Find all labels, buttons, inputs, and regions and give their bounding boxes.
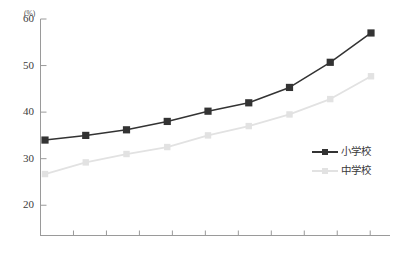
legend-swatch-elementary	[312, 146, 338, 158]
series-marker	[286, 111, 292, 117]
series-marker	[327, 96, 333, 102]
series-marker	[246, 123, 252, 129]
series-marker	[41, 136, 48, 143]
series-marker	[82, 132, 89, 139]
x-axis-ticks	[73, 231, 370, 236]
series-marker	[286, 84, 293, 91]
y-axis-tick-label: 60	[6, 12, 34, 24]
series-marker	[368, 73, 374, 79]
legend-label-juniorhigh: 中学校	[341, 165, 371, 176]
legend-item-elementary: 小学校	[312, 142, 392, 161]
series-marker	[164, 144, 170, 150]
chart-axes	[41, 19, 391, 236]
y-axis-tick-label: 20	[6, 198, 34, 210]
line-chart: (%) 6050403020 小学校 中学校	[0, 0, 395, 255]
series-marker	[205, 132, 211, 138]
chart-plot-area	[0, 0, 395, 255]
series-marker	[123, 151, 129, 157]
chart-series-elementary	[41, 29, 374, 143]
series-marker	[245, 99, 252, 106]
y-axis-ticks	[41, 19, 47, 205]
y-axis-tick-label: 40	[6, 105, 34, 117]
y-axis-tick-label: 50	[6, 59, 34, 71]
series-marker	[367, 29, 374, 36]
series-marker	[42, 171, 48, 177]
legend-item-juniorhigh: 中学校	[312, 161, 392, 180]
series-marker	[83, 159, 89, 165]
series-line	[45, 33, 371, 140]
legend-marker	[322, 168, 328, 174]
chart-legend: 小学校 中学校	[312, 142, 392, 182]
y-axis-tick-label: 30	[6, 152, 34, 164]
legend-swatch-juniorhigh	[312, 165, 338, 177]
series-marker	[123, 126, 130, 133]
series-marker	[327, 59, 334, 66]
series-marker	[204, 108, 211, 115]
legend-marker	[322, 149, 328, 155]
legend-label-elementary: 小学校	[341, 146, 371, 157]
series-marker	[164, 118, 171, 125]
